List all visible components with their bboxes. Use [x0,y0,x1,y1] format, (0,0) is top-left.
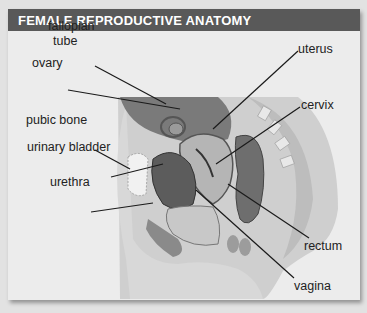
label-cervix: cervix [301,98,334,112]
label-uterus: uterus [298,42,333,56]
label-urinary-bladder: urinary bladder [27,140,110,154]
label-fallopian-tube-line2: tube [53,34,77,48]
label-ovary: ovary [32,56,63,70]
label-vagina: vagina [294,279,331,293]
label-rectum: rectum [304,239,342,253]
anatomy-figure-panel: FEMALE REPRODUCTIVE ANATOMY [8,9,360,300]
label-pubic-bone: pubic bone [26,113,87,127]
label-fallopian-tube-line1: fallopian [48,19,95,33]
label-urethra: urethra [50,175,90,189]
